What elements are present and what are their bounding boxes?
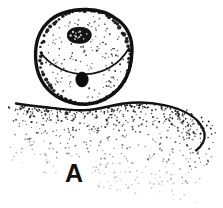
stipple-dot [26,113,27,114]
stipple-dot [25,133,27,135]
stipple-dot [106,85,108,87]
stipple-dot [73,59,74,60]
stipple-dot [36,122,37,123]
stipple-dot [41,124,42,125]
stipple-dot [64,12,68,16]
stipple-dot [93,126,95,128]
stipple-dot [29,141,30,142]
stipple-dot [113,78,114,79]
stipple-dot [58,54,60,56]
stipple-dot [55,84,56,85]
stipple-dot [159,142,161,144]
stipple-dot [186,132,188,134]
stipple-dot [110,49,111,50]
stipple-dot [18,126,20,128]
stipple-dot [165,108,167,110]
stipple-dot [109,188,111,190]
stipple-dot [32,111,33,112]
stipple-dot [88,25,89,26]
stipple-dot [79,122,81,124]
stipple-dot [147,159,149,161]
stipple-dot [152,121,153,122]
stipple-dot [145,114,146,115]
stipple-dot [141,123,143,125]
stipple-dot [138,182,140,184]
stipple-dot [198,157,200,159]
stipple-dot [150,182,152,184]
stipple-dot [134,111,136,113]
stipple-dot [181,176,183,178]
stipple-dot [169,154,170,155]
stipple-dot [41,133,42,134]
stipple-dot [43,34,46,37]
stipple-dot [88,9,91,12]
stipple-dot [37,111,39,113]
stipple-dot [81,112,82,113]
stipple-dot [83,113,84,114]
stipple-dot [69,83,70,84]
stipple-dot [125,109,126,110]
stipple-dot [192,131,194,133]
stipple-dot [68,130,69,131]
stipple-dot [36,132,38,134]
stipple-dot [99,93,100,94]
stipple-dot [83,141,85,143]
stipple-dot [171,148,173,150]
stipple-dot [55,63,57,65]
stipple-dot [17,113,18,114]
stipple-dot [119,63,120,64]
stipple-dot [103,87,104,88]
stipple-dot [165,166,166,167]
stipple-dot [173,194,175,196]
stipple-dot [126,44,130,48]
stipple-dot [106,118,108,120]
stipple-dot [67,143,69,145]
stipple-dot [183,120,185,122]
stipple-dot [20,107,21,108]
stipple-dot [203,132,205,134]
stipple-dot [148,181,149,182]
stipple-dot [56,157,58,159]
stipple-dot [70,134,72,136]
stipple-dot [200,144,202,146]
stipple-dot [177,108,178,109]
stipple-dot [45,108,47,110]
stipple-dot [195,182,196,183]
stipple-dot [79,30,81,32]
stipple-dot [56,109,58,111]
stipple-dot [96,102,99,105]
stipple-dot [88,111,90,113]
stipple-dot [214,132,215,133]
stipple-dot [182,114,184,116]
stipple-dot [85,54,87,56]
stipple-dot [115,124,117,126]
stipple-dot [97,130,99,132]
stipple-dot [103,187,105,189]
stipple-dot [128,53,131,56]
stipple-dot [164,120,166,122]
stipple-dot [174,126,175,127]
stipple-dot [177,118,179,120]
stipple-dot [32,149,34,151]
stipple-dot [91,102,94,105]
stipple-dot [71,120,72,121]
stipple-dot [125,120,126,121]
illustration-canvas [0,0,223,208]
stipple-dot [124,130,126,132]
stipple-dot [204,165,205,166]
stipple-dot [100,140,101,141]
stipple-dot [88,102,91,105]
stipple-dot [66,113,68,115]
stipple-dot [154,104,156,106]
stipple-dot [101,109,102,110]
stipple-dot [64,129,65,130]
stipple-dot [70,81,72,83]
stipple-dot [145,166,146,167]
stipple-dot [142,104,143,105]
stipple-dot [136,114,137,115]
stipple-dot [26,124,27,125]
stipple-dot [97,150,98,151]
stipple-dot [186,134,187,135]
stipple-dot [97,127,99,129]
stipple-dot [186,138,187,139]
